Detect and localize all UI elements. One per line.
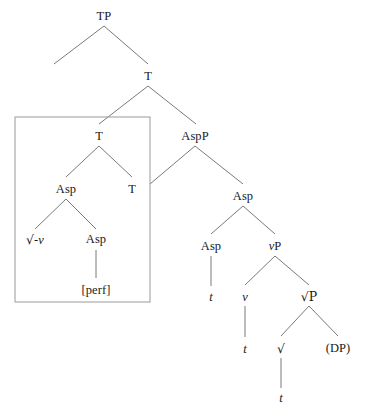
branch-aspp-right <box>195 146 243 184</box>
node-v-head: v <box>242 291 248 304</box>
branch-asphigh-right <box>243 206 275 234</box>
node-root-trace: t <box>279 392 283 405</box>
node-t-matrix: T <box>144 70 152 83</box>
tree-diagram-figure: TP T T Asp T √-v Asp [perf] AspP Asp Asp… <box>0 0 369 414</box>
branch-vp-right <box>275 256 309 285</box>
little-v-glyph: v <box>38 233 44 247</box>
branch-aspcomplex-right <box>66 199 96 229</box>
node-root-v: √-v <box>26 233 44 247</box>
node-perf-feature: [perf] <box>81 284 110 297</box>
branch-aspp-left <box>150 146 195 184</box>
branch-vp-left <box>245 256 275 285</box>
branch-asphigh-left <box>211 206 243 234</box>
branch-aspcomplex-left <box>35 199 66 229</box>
node-asp-complex: Asp <box>56 183 76 196</box>
node-asp-high: Asp <box>233 190 253 203</box>
root-sign-glyph: √- <box>26 232 38 247</box>
root-head-glyph: √ <box>277 341 285 356</box>
node-root-head: √ <box>277 342 285 356</box>
node-asp-mid: Asp <box>201 240 221 253</box>
node-aspp: AspP <box>181 130 209 143</box>
node-asp-inner: Asp <box>86 233 106 246</box>
node-root-p: √P <box>301 290 318 304</box>
branch-rootp-right <box>309 306 338 336</box>
node-t-inner: T <box>128 183 136 196</box>
branch-tcomplex-right <box>99 146 132 177</box>
branch-tcomplex-left <box>66 146 99 177</box>
root-p-glyph: √P <box>301 289 318 304</box>
node-asp-trace: t <box>209 291 213 304</box>
branch-tp-left <box>54 26 104 64</box>
node-tp: TP <box>97 10 112 23</box>
tree-branches-svg <box>0 0 369 414</box>
node-t-complex: T <box>95 130 103 143</box>
branch-t-left <box>99 86 148 124</box>
vp-p-glyph: P <box>274 239 281 253</box>
node-dp-optional: (DP) <box>326 342 351 355</box>
branch-tp-right <box>104 26 148 64</box>
node-v-trace: t <box>243 343 247 356</box>
node-vp: vP <box>269 240 282 253</box>
branch-rootp-left <box>281 306 309 336</box>
branch-t-right <box>148 86 196 124</box>
complex-head-highlight-box <box>15 117 150 302</box>
